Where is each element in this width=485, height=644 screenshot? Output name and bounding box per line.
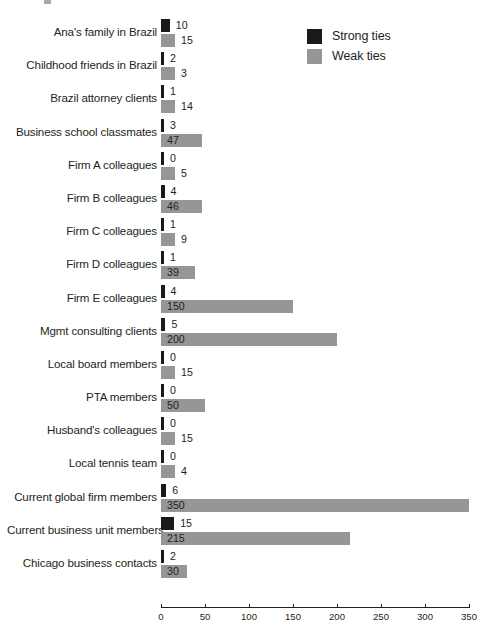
bar-weak (161, 499, 469, 512)
bar-weak (161, 432, 175, 445)
bar-value-label: 200 (167, 333, 185, 346)
bar-line-strong: 4 (161, 285, 485, 299)
bar-value-label: 15 (181, 34, 193, 47)
bar-value-label: 0 (170, 351, 176, 364)
chart-row: Ana's family in Brazil1015 (0, 18, 485, 51)
bar-group: 05 (161, 151, 485, 184)
bar-line-weak: 15 (161, 432, 485, 446)
bar-value-label: 4 (181, 465, 187, 478)
x-axis-tick-label: 150 (285, 611, 301, 622)
x-axis-tick (249, 604, 250, 608)
chart-row: Firm B colleagues446 (0, 184, 485, 217)
bar-line-weak: 3 (161, 67, 485, 81)
bar-value-label: 1 (170, 218, 176, 231)
bar-line-strong: 2 (161, 550, 485, 564)
bar-group: 04 (161, 449, 485, 482)
bar-line-weak: 150 (161, 300, 485, 314)
bar-value-label: 10 (176, 19, 188, 32)
x-axis-tick (337, 604, 338, 608)
category-label: Firm D colleagues (7, 257, 157, 270)
bar-line-strong: 1 (161, 251, 485, 265)
category-label: Chicago business contacts (7, 556, 157, 569)
scan-artifact (44, 0, 51, 4)
x-axis-tick-label: 300 (417, 611, 433, 622)
bar-line-weak: 39 (161, 266, 485, 280)
bar-line-weak: 200 (161, 333, 485, 347)
bar-line-strong: 3 (161, 119, 485, 133)
bar-line-strong: 10 (161, 19, 485, 33)
bar-group: 19 (161, 217, 485, 250)
bar-line-weak: 15 (161, 34, 485, 48)
x-axis-tick (469, 604, 470, 608)
bar-line-weak: 30 (161, 565, 485, 579)
x-axis-tick (293, 604, 294, 608)
bar-group: 6350 (161, 483, 485, 516)
bar-strong (161, 218, 164, 231)
chart-row: PTA members050 (0, 383, 485, 416)
bar-weak (161, 233, 175, 246)
bar-strong (161, 19, 170, 32)
x-axis-tick (205, 604, 206, 608)
bar-strong (161, 484, 166, 497)
x-axis-tick-label: 350 (461, 611, 477, 622)
chart-row: Husband's colleagues015 (0, 416, 485, 449)
bar-line-strong: 0 (161, 450, 485, 464)
bar-line-strong: 5 (161, 318, 485, 332)
bar-line-weak: 47 (161, 134, 485, 148)
bar-value-label: 15 (180, 517, 192, 530)
category-label: Business school classmates (7, 125, 157, 138)
bar-weak (161, 532, 350, 545)
bar-line-strong: 0 (161, 417, 485, 431)
chart-row: Current global firm members6350 (0, 483, 485, 516)
bar-strong (161, 450, 164, 463)
bar-strong (161, 417, 164, 430)
bar-weak (161, 333, 337, 346)
bar-line-weak: 46 (161, 200, 485, 214)
x-axis-tick-label: 50 (200, 611, 211, 622)
bar-group: 1015 (161, 18, 485, 51)
bar-weak (161, 366, 175, 379)
bar-strong (161, 351, 164, 364)
chart-row: Mgmt consulting clients5200 (0, 317, 485, 350)
bar-line-weak: 50 (161, 399, 485, 413)
bar-line-strong: 2 (161, 52, 485, 66)
bar-value-label: 5 (181, 167, 187, 180)
x-axis-line (161, 607, 469, 608)
bar-strong (161, 384, 164, 397)
bar-group: 139 (161, 250, 485, 283)
bar-group: 114 (161, 84, 485, 117)
bar-strong (161, 152, 164, 165)
chart-row: Childhood friends in Brazil23 (0, 51, 485, 84)
chart-rows: Ana's family in Brazil1015Childhood frie… (0, 18, 485, 582)
chart-row: Business school classmates347 (0, 118, 485, 151)
chart-row: Firm D colleagues139 (0, 250, 485, 283)
category-label: Mgmt consulting clients (7, 324, 157, 337)
bar-line-weak: 215 (161, 532, 485, 546)
bar-strong (161, 517, 174, 530)
bar-strong (161, 85, 164, 98)
bar-value-label: 39 (167, 266, 179, 279)
bar-strong (161, 285, 165, 298)
bar-weak (161, 465, 175, 478)
bar-line-weak: 9 (161, 233, 485, 247)
bar-value-label: 215 (167, 532, 185, 545)
x-axis: 050100150200250300350 (161, 607, 469, 637)
category-label: Ana's family in Brazil (7, 25, 157, 38)
bar-value-label: 2 (170, 52, 176, 65)
x-axis-tick-label: 0 (158, 611, 163, 622)
bar-value-label: 4 (171, 285, 177, 298)
bar-line-weak: 14 (161, 100, 485, 114)
bar-line-weak: 350 (161, 499, 485, 513)
bar-group: 230 (161, 549, 485, 582)
bar-value-label: 15 (181, 432, 193, 445)
bar-weak (161, 34, 175, 47)
bar-value-label: 9 (181, 233, 187, 246)
bar-line-strong: 0 (161, 351, 485, 365)
bar-line-strong: 0 (161, 384, 485, 398)
bar-value-label: 350 (167, 499, 185, 512)
bar-value-label: 3 (170, 119, 176, 132)
category-label: Husband's colleagues (7, 423, 157, 436)
bar-value-label: 150 (167, 300, 185, 313)
chart-row: Firm E colleagues4150 (0, 284, 485, 317)
bar-group: 050 (161, 383, 485, 416)
